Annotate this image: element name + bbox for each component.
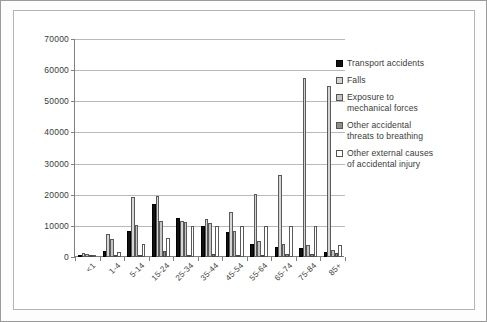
y-axis-label: 30000	[44, 159, 69, 169]
x-axis-label: 75-84	[297, 261, 319, 283]
y-axis-label: 10000	[44, 221, 69, 231]
bar	[264, 226, 268, 257]
x-axis-label: 45-54	[223, 261, 245, 283]
x-axis-tick	[222, 257, 223, 261]
legend-label: Other accidental threats to breathing	[347, 120, 423, 142]
x-axis-tick	[75, 257, 76, 261]
legend-swatch-icon	[336, 94, 343, 101]
legend-label: Other external causes of accidental inju…	[347, 148, 433, 170]
y-axis-label: 70000	[44, 34, 69, 44]
x-axis-tick	[198, 257, 199, 261]
legend-item: Other external causes of accidental inju…	[336, 148, 476, 170]
bar-group	[75, 39, 100, 257]
bar	[135, 225, 139, 257]
bar	[142, 244, 146, 257]
x-axis-label: 1-4	[107, 261, 122, 276]
legend-item: Transport accidents	[336, 58, 476, 69]
x-axis-label: 85+	[327, 261, 343, 277]
bar	[314, 226, 318, 257]
bar-chart: 010000200003000040000500006000070000 <11…	[14, 11, 476, 311]
x-axis-label: 35-44	[199, 261, 221, 283]
x-axis-tick	[296, 257, 297, 261]
legend-item: Other accidental threats to breathing	[336, 120, 476, 142]
bar	[166, 238, 170, 257]
bar-group	[296, 39, 321, 257]
bar-group	[247, 39, 272, 257]
bar	[184, 222, 188, 258]
legend-label: Exposure to mechanical forces	[347, 92, 418, 114]
x-axis-tick	[149, 257, 150, 261]
bar	[117, 252, 121, 257]
x-axis-tick	[173, 257, 174, 261]
x-axis-label: 65-74	[272, 261, 294, 283]
image-border: 010000200003000040000500006000070000 <11…	[0, 0, 487, 322]
chart-legend: Transport accidentsFallsExposure to mech…	[336, 58, 476, 176]
bar-group	[271, 39, 296, 257]
x-axis-tick	[124, 257, 125, 261]
x-axis-label: 25-34	[174, 261, 196, 283]
legend-swatch-icon	[336, 77, 343, 84]
bar-group	[173, 39, 198, 257]
legend-item: Falls	[336, 75, 476, 86]
legend-label: Falls	[347, 75, 366, 86]
bar	[215, 226, 219, 257]
bar-group	[198, 39, 223, 257]
bar-groups	[75, 39, 345, 257]
chart-frame: 010000200003000040000500006000070000 <11…	[13, 10, 475, 310]
bar	[327, 86, 331, 257]
bar	[208, 223, 212, 257]
y-axis-label: 60000	[44, 65, 69, 75]
bar	[303, 78, 307, 257]
bar	[93, 255, 97, 257]
x-axis-label: 5-14	[128, 261, 146, 279]
y-axis-label: 20000	[44, 190, 69, 200]
x-axis-label: 55-64	[248, 261, 270, 283]
bar-group	[100, 39, 125, 257]
bar-group	[222, 39, 247, 257]
plot-area: 010000200003000040000500006000070000 <11…	[74, 39, 344, 257]
bar	[289, 226, 293, 257]
legend-label: Transport accidents	[347, 58, 424, 69]
x-axis-tick	[247, 257, 248, 261]
y-axis-label: 40000	[44, 127, 69, 137]
x-axis-tick	[345, 257, 346, 261]
bar-group	[149, 39, 174, 257]
legend-swatch-icon	[336, 60, 343, 67]
x-axis-label: 15-24	[150, 261, 172, 283]
bar	[338, 245, 342, 257]
bar-group	[124, 39, 149, 257]
y-axis-label: 0	[64, 252, 69, 262]
bar	[233, 231, 237, 257]
legend-item: Exposure to mechanical forces	[336, 92, 476, 114]
bar	[240, 226, 244, 257]
x-axis-tick	[320, 257, 321, 261]
x-axis-tick	[100, 257, 101, 261]
bar	[191, 226, 195, 257]
legend-swatch-icon	[336, 122, 343, 129]
x-axis-label: <1	[85, 261, 98, 274]
x-axis-tick	[271, 257, 272, 261]
y-axis-label: 50000	[44, 96, 69, 106]
legend-swatch-icon	[336, 150, 343, 157]
